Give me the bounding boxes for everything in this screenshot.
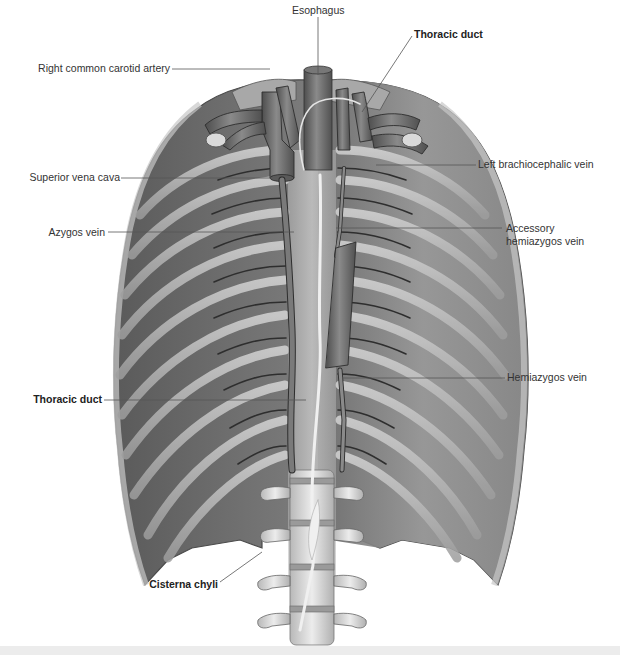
label-thoracic-duct-top: Thoracic duct bbox=[414, 28, 483, 41]
label-hemiazygos-vein: Hemiazygos vein bbox=[507, 371, 587, 384]
label-left-brachiocephalic-vein: Left brachiocephalic vein bbox=[478, 158, 594, 171]
leader-cisterna-chyli bbox=[220, 552, 262, 582]
label-accessory-hemiazygos-line2: hemiazygos vein bbox=[506, 235, 584, 248]
label-cisterna-chyli: Cisterna chyli bbox=[149, 578, 218, 591]
label-accessory-hemiazygos-line1: Accessory bbox=[506, 222, 584, 235]
label-thoracic-duct-left: Thoracic duct bbox=[33, 393, 102, 406]
thoracic-duct-diagram: Esophagus Thoracic duct Right common car… bbox=[0, 0, 620, 655]
label-right-common-carotid-artery: Right common carotid artery bbox=[38, 62, 170, 75]
label-esophagus: Esophagus bbox=[292, 4, 345, 17]
label-accessory-hemiazygos-vein: Accessory hemiazygos vein bbox=[506, 222, 584, 248]
footer-band bbox=[0, 646, 620, 655]
label-superior-vena-cava: Superior vena cava bbox=[30, 171, 120, 184]
label-azygos-vein: Azygos vein bbox=[48, 226, 105, 239]
anatomy-illustration bbox=[0, 0, 620, 655]
esophagus-structure bbox=[304, 66, 332, 170]
